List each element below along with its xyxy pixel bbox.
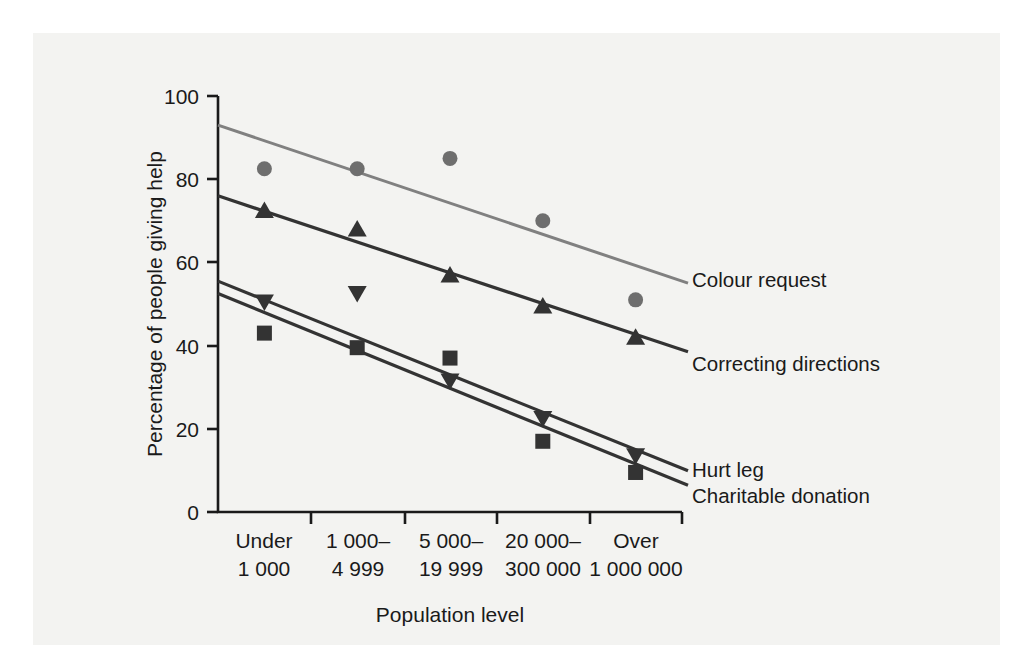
data-point-3-0 [257,326,272,341]
series-label-correcting-directions: Correcting directions [692,352,880,375]
x-label-1-line1: Under [235,529,292,552]
data-point-0-4 [628,292,643,307]
x-label-2-line2: 4 999 [332,557,385,580]
y-tick-label-80: 80 [176,168,199,191]
series-labels-group: Colour request Correcting directions Hur… [692,268,880,507]
y-tick-label-100: 100 [164,85,199,108]
trend-lines-group [218,125,688,485]
data-point-3-1 [350,340,365,355]
data-point-2-2 [441,373,460,390]
data-point-3-3 [535,434,550,449]
x-axis-ticks [311,512,682,524]
x-label-1-line2: 1 000 [238,557,291,580]
y-tick-label-20: 20 [176,418,199,441]
x-label-5-line1: Over [613,529,659,552]
data-point-3-4 [628,465,643,480]
data-point-0-0 [257,161,272,176]
data-point-1-1 [348,220,367,237]
chart-svg: 100 80 60 40 20 0 Percentage of people g… [0,0,1031,671]
data-point-0-3 [535,213,550,228]
trend-line-3 [218,294,688,486]
x-label-4-line1: 20 000– [505,529,581,552]
x-label-3-line2: 19 999 [419,557,483,580]
series-label-charitable-donation: Charitable donation [692,484,870,507]
y-axis-ticks [207,96,218,512]
data-point-0-2 [443,151,458,166]
y-tick-label-0: 0 [187,501,199,524]
x-label-3-line1: 5 000– [419,529,484,552]
series-label-colour-request: Colour request [692,268,827,291]
trend-line-0 [218,125,688,283]
y-tick-label-60: 60 [176,251,199,274]
series-label-hurt-leg: Hurt leg [692,458,764,481]
y-axis-tick-labels: 100 80 60 40 20 0 [164,85,199,524]
x-label-2-line1: 1 000– [326,529,391,552]
x-axis-category-labels: Under 1 000 1 000– 4 999 5 000– 19 999 2… [235,529,682,580]
data-point-2-1 [348,286,367,303]
x-label-5-line2: 1 000 000 [589,557,682,580]
figure-container: 100 80 60 40 20 0 Percentage of people g… [0,0,1031,671]
y-axis-title: Percentage of people giving help [143,151,166,457]
data-point-3-2 [443,351,458,366]
x-axis-title: Population level [376,603,524,626]
data-point-0-1 [350,161,365,176]
x-label-4-line2: 300 000 [505,557,581,580]
y-tick-label-40: 40 [176,335,199,358]
